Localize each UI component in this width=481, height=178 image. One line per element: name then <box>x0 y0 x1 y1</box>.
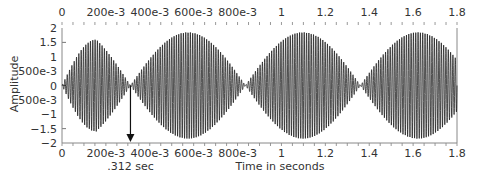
top-x-tick-label: 200e-3 <box>87 6 126 19</box>
x-axis-title: Time in seconds <box>235 160 325 173</box>
arrow-head-icon <box>126 134 134 142</box>
bottom-x-tick-label: 600e-3 <box>174 147 213 160</box>
y-tick-label: 500e-3 <box>18 65 57 78</box>
y-axis-title: Amplitude <box>8 56 21 113</box>
y-tick-label: −1.5 <box>30 123 57 136</box>
top-x-tick-label: 1.8 <box>448 6 466 19</box>
top-x-axis: 0200e-3400e-3600e-3800e-311.21.41.61.8 <box>59 6 466 25</box>
bottom-x-tick-label: 800e-3 <box>218 147 257 160</box>
top-x-tick-label: 400e-3 <box>130 6 169 19</box>
top-x-tick-label: 1.2 <box>317 6 335 19</box>
bottom-x-tick-label: 1.6 <box>404 147 422 160</box>
bottom-x-tick-label: 1.2 <box>317 147 335 160</box>
y-tick-label: 1.5 <box>40 36 58 49</box>
arrow-annotation-label: .312 sec <box>107 160 154 173</box>
y-axis: 21.51500e-30500e-3−1−1.5−2 <box>18 22 66 150</box>
y-tick-label: 2 <box>50 22 57 35</box>
y-tick-label: −2 <box>41 137 57 150</box>
y-tick-label: −1 <box>41 108 57 121</box>
y-tick-label: 500e-3 <box>18 94 57 107</box>
top-x-tick-label: 1.6 <box>404 6 422 19</box>
bottom-x-tick-label: 1.8 <box>448 147 466 160</box>
y-tick-label: 0 <box>50 80 57 93</box>
top-x-tick-label: 600e-3 <box>174 6 213 19</box>
bottom-x-tick-label: 0 <box>59 147 66 160</box>
bottom-x-tick-label: 400e-3 <box>130 147 169 160</box>
top-x-tick-label: 1.4 <box>360 6 378 19</box>
bottom-x-axis: 0200e-3400e-3600e-3800e-311.21.41.61.8 <box>59 143 466 160</box>
bottom-x-tick-label: 1.4 <box>360 147 378 160</box>
bottom-x-tick-label: 200e-3 <box>87 147 126 160</box>
y-tick-label: 1 <box>50 51 57 64</box>
beat-waveform-chart: 0200e-3400e-3600e-3800e-311.21.41.61.8 0… <box>0 0 481 178</box>
node-arrow-annotation <box>126 86 134 143</box>
waveform-trace <box>62 32 457 138</box>
top-x-tick-label: 1 <box>278 6 285 19</box>
top-x-tick-label: 800e-3 <box>218 6 257 19</box>
bottom-x-tick-label: 1 <box>278 147 285 160</box>
top-x-tick-label: 0 <box>59 6 66 19</box>
